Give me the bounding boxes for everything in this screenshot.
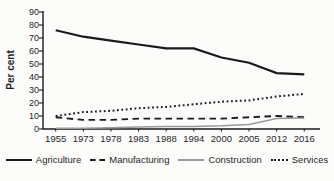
legend-label-manufacturing: Manufacturing [109, 154, 169, 165]
x-tick-label-2000: 2000 [206, 133, 236, 145]
y-tick-label-40: 40 [20, 72, 39, 83]
legend-item-services: Services [271, 154, 328, 165]
x-tick-label-1994: 1994 [179, 133, 209, 145]
y-tick-label-30: 30 [20, 85, 39, 96]
x-tick-label-1973: 1973 [68, 133, 98, 145]
y-tick-label-10: 10 [20, 111, 39, 122]
series-line-manufacturing [56, 116, 305, 120]
series-line-agriculture [56, 30, 305, 74]
legend-label-agriculture: Agriculture [36, 154, 81, 165]
legend-label-services: Services [292, 154, 328, 165]
legend-line-manufacturing-icon [90, 159, 105, 161]
x-tick-label-1978: 1978 [96, 133, 126, 145]
legend-line-services-icon [271, 159, 288, 161]
x-tick-label-1955: 1955 [41, 133, 71, 145]
y-tick-label-50: 50 [20, 59, 39, 70]
x-tick-label-1983: 1983 [124, 133, 154, 145]
legend-line-agriculture-icon [6, 159, 32, 161]
legend-label-construction: Construction [208, 154, 261, 165]
x-tick-label-2016: 2016 [289, 133, 319, 145]
line-chart-figure: Per cent 0102030405060708090 19551973197… [0, 0, 334, 181]
legend: AgricultureManufacturingConstructionServ… [0, 154, 334, 165]
y-tick-label-80: 80 [20, 20, 39, 31]
y-tick-label-0: 0 [20, 124, 39, 135]
series-line-services [56, 94, 305, 116]
legend-item-agriculture: Agriculture [6, 154, 81, 165]
y-tick-label-20: 20 [20, 98, 39, 109]
x-tick-label-2012: 2012 [262, 133, 292, 145]
x-tick-label-2005: 2005 [234, 133, 264, 145]
x-tick-label-1988: 1988 [151, 133, 181, 145]
legend-item-manufacturing: Manufacturing [90, 154, 169, 165]
y-tick-label-90: 90 [20, 7, 39, 18]
legend-item-construction: Construction [178, 154, 261, 165]
legend-line-construction-icon [178, 159, 204, 161]
plot-area [0, 0, 334, 152]
y-tick-label-60: 60 [20, 46, 39, 57]
y-tick-label-70: 70 [20, 33, 39, 44]
